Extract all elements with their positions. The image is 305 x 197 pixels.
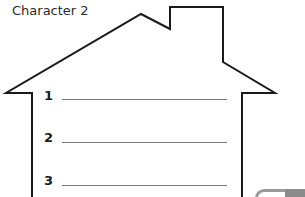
corner-tab-fill bbox=[285, 189, 305, 197]
answer-line-2[interactable] bbox=[62, 142, 227, 143]
item-number-1: 1 bbox=[44, 89, 53, 103]
answer-line-3[interactable] bbox=[62, 185, 227, 186]
item-number-3: 3 bbox=[44, 174, 53, 188]
answer-line-1[interactable] bbox=[62, 99, 227, 100]
item-number-2: 2 bbox=[44, 131, 53, 145]
